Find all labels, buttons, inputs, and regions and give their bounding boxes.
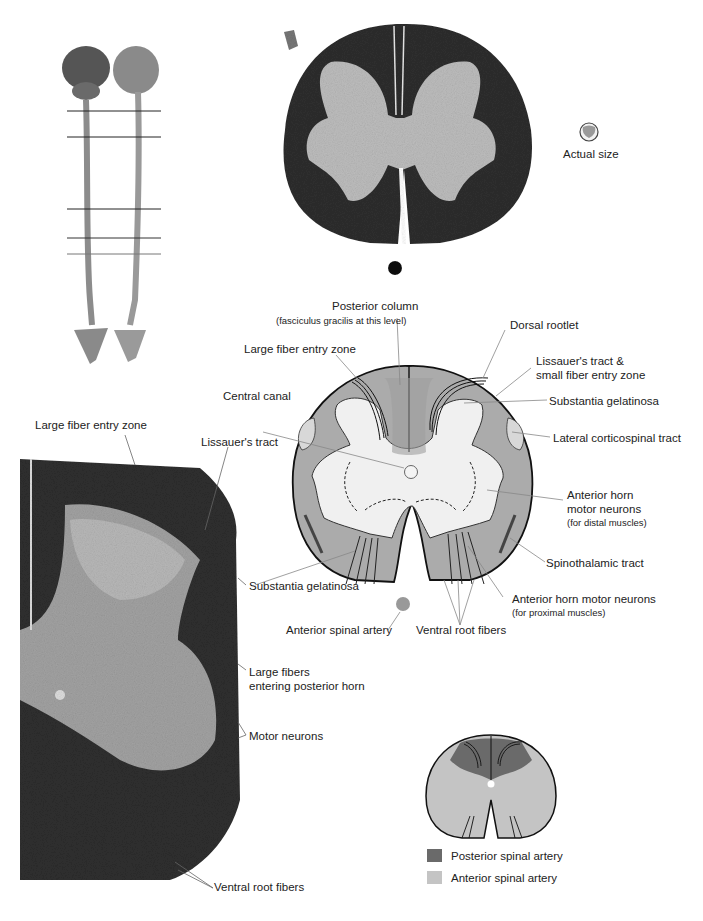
label-posterior-column-sub: (fasciculus gracilis at this level) (276, 315, 406, 327)
actual-size-icon (580, 123, 598, 141)
label-actual-size: Actual size (563, 147, 619, 161)
brain-spinal-cord-illustration (62, 46, 161, 364)
legend-item-posterior-spinal-artery: Posterior spinal artery (427, 849, 563, 862)
legend-label: Anterior spinal artery (451, 872, 557, 884)
legend-label: Posterior spinal artery (451, 850, 563, 862)
label-anterior-horn-proximal-sub: (for proximal muscles) (512, 607, 605, 619)
label-spinothalamic-tract: Spinothalamic tract (546, 556, 644, 570)
label-large-fibers-1: Large fibers (249, 665, 310, 679)
label-substantia-gelatinosa: Substantia gelatinosa (549, 394, 659, 408)
stained-cross-section-photo (283, 24, 532, 275)
label-dorsal-rootlet: Dorsal rootlet (510, 318, 578, 332)
label-ventral-root-fibers: Ventral root fibers (416, 623, 506, 637)
vascular-territory-diagram (426, 735, 556, 838)
label-histology-large-fiber-entry-zone: Large fiber entry zone (35, 418, 147, 432)
label-anterior-horn-proximal: Anterior horn motor neurons (512, 592, 656, 606)
label-large-fibers-2: entering posterior horn (249, 679, 365, 693)
label-large-fiber-entry-zone: Large fiber entry zone (244, 342, 356, 356)
label-posterior-column: Posterior column (332, 299, 418, 313)
label-motor-neurons: Motor neurons (249, 729, 323, 743)
label-central-canal: Central canal (223, 389, 291, 403)
label-histology-lissauer-tract: Lissauer's tract (201, 435, 278, 449)
label-anterior-horn-distal-sub: (for distal muscles) (567, 517, 647, 529)
label-lissauer-tract-1: Lissauer's tract & (536, 354, 624, 368)
label-histology-ventral-root-fibers: Ventral root fibers (214, 880, 304, 894)
label-anterior-spinal-artery: Anterior spinal artery (286, 623, 392, 637)
label-substantia-gelatinosa-histology: Substantia gelatinosa (249, 579, 359, 593)
label-lateral-corticospinal-tract: Lateral corticospinal tract (553, 431, 681, 445)
label-lissauer-tract-2: small fiber entry zone (536, 368, 645, 382)
figure-graphics (0, 0, 703, 921)
label-anterior-horn-distal-1: Anterior horn (567, 488, 633, 502)
legend-swatch-anterior (427, 871, 442, 884)
legend-swatch-posterior (427, 849, 442, 862)
label-anterior-horn-distal-2: motor neurons (567, 502, 641, 516)
legend-item-anterior-spinal-artery: Anterior spinal artery (427, 871, 557, 884)
